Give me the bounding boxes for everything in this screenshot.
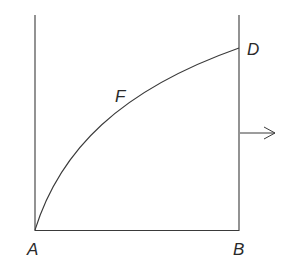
curve-afd [35, 48, 239, 230]
label-a: A [26, 240, 38, 259]
diagram-canvas: A B D F [0, 0, 300, 277]
label-f: F [115, 87, 127, 106]
diagram-svg: A B D F [0, 0, 300, 277]
arrow-right-icon [240, 127, 275, 139]
label-b: B [233, 240, 244, 259]
label-d: D [247, 40, 259, 59]
